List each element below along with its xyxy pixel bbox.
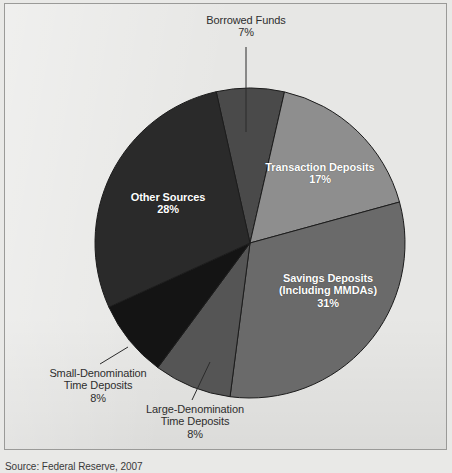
pie-chart-figure: Borrowed Funds 7% Transaction Deposits 1…: [0, 0, 452, 473]
slice-label-small-denomination-time-deposits: Small-Denomination Time Deposits 8%: [36, 367, 160, 404]
slice-label-large-denomination-time-deposits: Large-Denomination Time Deposits 8%: [128, 403, 262, 440]
slice-value-borrowed-funds: 7%: [186, 26, 306, 38]
slice-label-transaction-deposits: Transaction Deposits 17%: [253, 161, 387, 186]
slice-value-large-denomination: 8%: [128, 428, 262, 440]
slice-label-large-denomination-subtext: Time Deposits: [128, 415, 262, 427]
slice-label-borrowed-funds: Borrowed Funds 7%: [186, 14, 306, 39]
slice-label-savings-deposits: Savings Deposits (Including MMDAs) 31%: [258, 272, 398, 309]
slice-value-transaction-deposits: 17%: [253, 173, 387, 185]
slice-label-savings-deposits-text: Savings Deposits: [258, 272, 398, 284]
pie-slice-group: [95, 88, 405, 398]
slice-label-large-denomination-text: Large-Denomination: [128, 403, 262, 415]
slice-label-small-denomination-subtext: Time Deposits: [36, 379, 160, 391]
slice-label-transaction-deposits-text: Transaction Deposits: [253, 161, 387, 173]
slice-label-other-sources: Other Sources 28%: [113, 191, 223, 216]
slice-value-savings-deposits: 31%: [258, 297, 398, 309]
slice-label-small-denomination-text: Small-Denomination: [36, 367, 160, 379]
slice-label-other-sources-text: Other Sources: [113, 191, 223, 203]
slice-label-savings-deposits-subtext: (Including MMDAs): [258, 284, 398, 296]
slice-label-borrowed-funds-text: Borrowed Funds: [186, 14, 306, 26]
slice-value-other-sources: 28%: [113, 203, 223, 215]
chart-area: Borrowed Funds 7% Transaction Deposits 1…: [0, 0, 452, 473]
source-note: Source: Federal Reserve, 2007: [5, 461, 143, 472]
leader-line-small-denomination: [100, 347, 128, 364]
